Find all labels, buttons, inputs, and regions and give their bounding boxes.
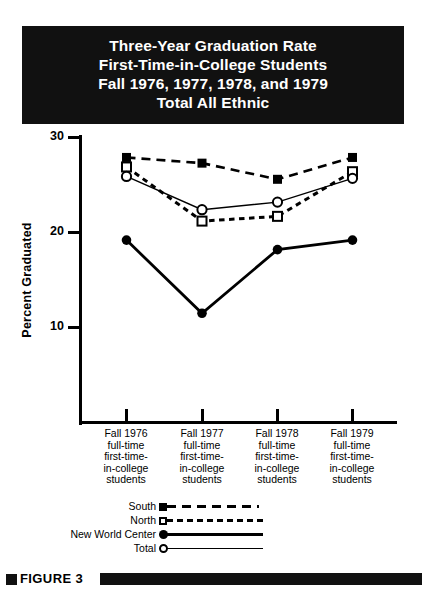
legend-swatch (159, 528, 363, 541)
data-point-open-circle (273, 198, 282, 207)
legend-swatch (159, 542, 363, 555)
legend-swatch (159, 500, 363, 513)
legend-item-total: Total (30, 542, 370, 555)
legend-item-south: South (30, 500, 370, 513)
series-new-world-center (122, 235, 358, 318)
data-point-open-square (273, 212, 282, 221)
data-point-open-circle (122, 172, 131, 181)
x-axis-category-labels: Fall 1976full-timefirst-time-in-colleges… (79, 428, 397, 490)
black-square-bullet-icon (6, 574, 17, 585)
open-circle-marker-icon (159, 544, 168, 553)
short-dash-line-icon (167, 519, 263, 522)
data-point-open-circle (348, 174, 357, 183)
data-point-open-square (198, 217, 207, 226)
solid-thick-line-icon (167, 533, 263, 536)
x-category-label: Fall 1978full-timefirst-time-in-colleges… (235, 428, 319, 486)
series-line (127, 157, 353, 179)
x-category-label-line: Fall 1976 (84, 428, 168, 440)
filled-square-marker-icon (159, 503, 167, 511)
data-point-filled-square (198, 159, 207, 168)
figure-caption: FIGURE 3 (6, 572, 422, 586)
legend-label: North (30, 515, 159, 526)
x-category-label-line: Fall 1978 (235, 428, 319, 440)
filled-circle-marker-icon (159, 530, 168, 539)
chart-legend: South North New World Center Total (30, 500, 370, 556)
x-category-label: Fall 1976full-timefirst-time-in-colleges… (84, 428, 168, 486)
legend-item-new-world-center: New World Center (30, 528, 370, 541)
open-square-marker-icon (159, 517, 167, 525)
series-line (127, 167, 353, 221)
x-category-label-line: Fall 1977 (160, 428, 244, 440)
data-point-filled-square (273, 175, 282, 184)
legend-swatch (159, 514, 363, 527)
data-point-open-square (122, 162, 131, 171)
data-point-open-circle (197, 205, 206, 214)
series-total (122, 172, 357, 214)
data-point-filled-square (122, 153, 131, 162)
legend-item-north: North (30, 514, 370, 527)
figure-page: Three-Year Graduation Rate First-Time-in… (0, 0, 428, 600)
x-category-label-line: students (310, 474, 394, 486)
x-category-label-line: students (84, 474, 168, 486)
data-point-filled-circle (348, 235, 358, 245)
data-point-filled-circle (122, 235, 132, 245)
legend-label: Total (30, 543, 159, 554)
data-point-filled-circle (197, 308, 207, 318)
x-category-label-line: Fall 1979 (310, 428, 394, 440)
figure-rule-bar (100, 573, 422, 585)
data-point-filled-circle (273, 245, 283, 255)
figure-label: FIGURE 3 (20, 572, 83, 586)
legend-label: South (30, 501, 159, 512)
series-line (127, 240, 353, 313)
series-north (122, 162, 357, 225)
solid-thin-line-icon (167, 548, 263, 550)
x-category-label-line: students (235, 474, 319, 486)
x-category-label: Fall 1979full-timefirst-time-in-colleges… (310, 428, 394, 486)
x-category-label: Fall 1977full-timefirst-time-in-colleges… (160, 428, 244, 486)
legend-label: New World Center (30, 529, 159, 540)
long-dash-line-icon (167, 505, 259, 508)
data-point-filled-square (348, 153, 357, 162)
series-south (122, 153, 357, 184)
x-category-label-line: students (160, 474, 244, 486)
